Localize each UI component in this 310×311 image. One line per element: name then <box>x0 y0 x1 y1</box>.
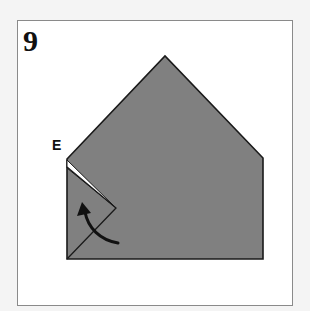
origami-diagram <box>0 0 310 311</box>
